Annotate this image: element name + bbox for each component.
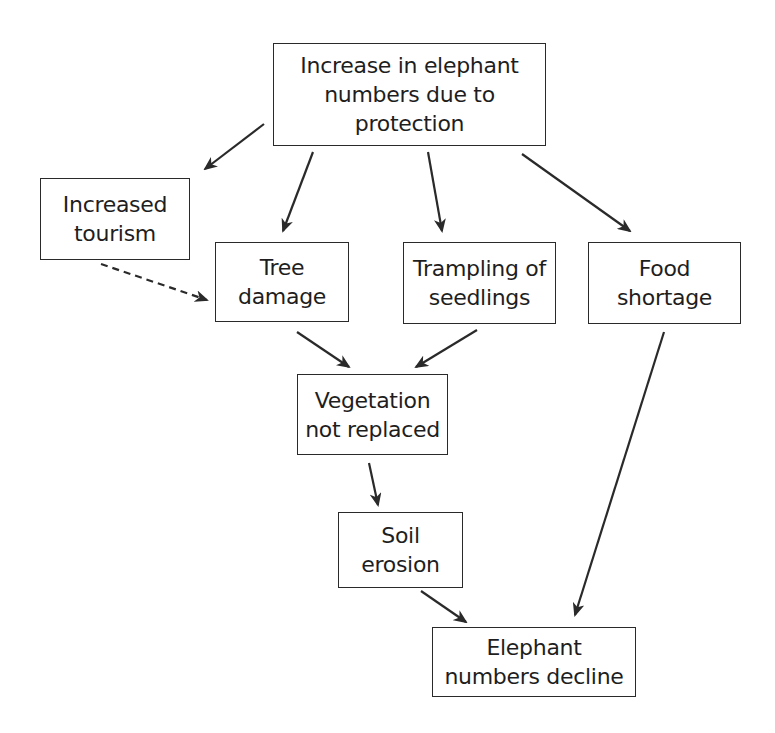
node-line: Increased [63,190,167,219]
node-food-shortage: Food shortage [588,242,741,324]
node-line: seedlings [429,283,530,312]
node-line: Food [639,254,691,283]
node-line: not replaced [305,415,440,444]
node-line: shortage [617,283,712,312]
arrow-soil-to-decline [421,591,466,622]
arrow-tourism-to-tree [101,264,207,300]
node-soil-erosion: Soil erosion [338,512,463,588]
node-line: tourism [74,219,156,248]
node-trampling-of-seedlings: Trampling of seedlings [403,242,556,324]
node-increased-tourism: Increased tourism [40,178,190,260]
node-line: numbers decline [444,662,623,691]
arrow-vegetation-to-soil [369,463,378,505]
node-line: damage [238,282,326,311]
arrow-trampling-to-vegetation [416,330,477,367]
node-line: Vegetation [315,386,431,415]
node-line: Elephant [486,633,581,662]
node-line: Tree [260,253,305,282]
node-vegetation-not-replaced: Vegetation not replaced [297,374,448,455]
node-tree-damage: Tree damage [215,242,349,322]
node-line: erosion [361,550,439,579]
arrow-increase-to-trampling [428,152,442,231]
arrow-increase-to-tourism [205,124,264,169]
arrow-tree-to-vegetation [297,332,349,367]
node-line: Soil [381,521,419,550]
node-line: numbers due to [324,80,495,109]
flowchart-canvas: Increase in elephant numbers due to prot… [0,0,775,733]
arrow-increase-to-tree [283,152,313,231]
node-elephant-numbers-decline: Elephant numbers decline [432,627,636,697]
node-line: Trampling of [413,254,546,283]
arrow-food-to-decline [575,332,664,615]
arrow-increase-to-food [522,154,630,231]
node-line: Increase in elephant [300,51,518,80]
node-line: protection [355,109,464,138]
node-increase-in-elephant-numbers: Increase in elephant numbers due to prot… [273,43,546,146]
